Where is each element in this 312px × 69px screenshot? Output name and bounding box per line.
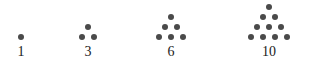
dot — [162, 24, 168, 30]
dot — [85, 24, 91, 30]
dot — [168, 14, 174, 20]
triangular-numbers-figure: 13610 — [0, 0, 312, 69]
dot — [254, 24, 260, 30]
dot — [248, 34, 254, 40]
dot-group-10: 10 — [239, 0, 299, 69]
dot-group-6: 6 — [141, 0, 201, 69]
dot — [266, 4, 272, 10]
dot — [156, 34, 162, 40]
dot — [168, 34, 174, 40]
dot-group-label: 3 — [58, 45, 118, 59]
dot-group-3: 3 — [58, 0, 118, 69]
dot — [272, 14, 278, 20]
dot — [260, 14, 266, 20]
dot-group-label: 1 — [0, 45, 51, 59]
dot — [79, 34, 85, 40]
dot-group-label: 10 — [239, 45, 299, 59]
dot — [91, 34, 97, 40]
dot — [278, 24, 284, 30]
dot-group-label: 6 — [141, 45, 201, 59]
dot-group-1: 1 — [0, 0, 51, 69]
dot — [18, 34, 24, 40]
dot — [180, 34, 186, 40]
dot — [174, 24, 180, 30]
dot — [284, 34, 290, 40]
dot — [266, 24, 272, 30]
dot — [260, 34, 266, 40]
dot — [272, 34, 278, 40]
